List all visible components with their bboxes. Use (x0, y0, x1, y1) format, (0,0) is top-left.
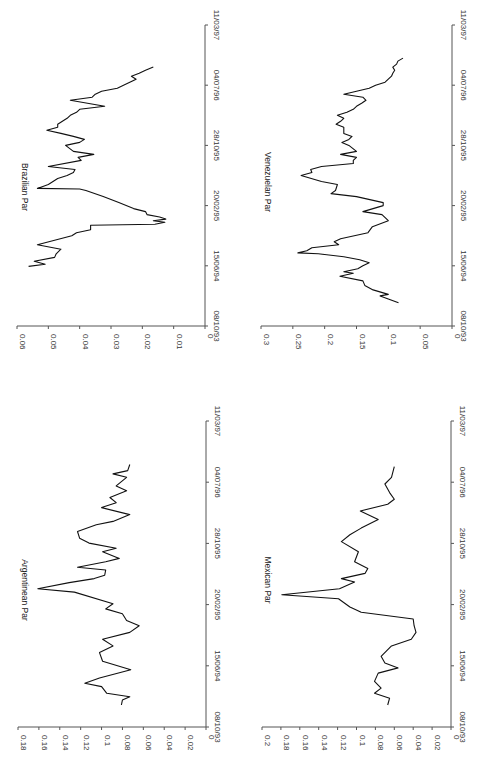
value-tick-label: 0.04 (165, 735, 174, 751)
value-tick-label: 0.18 (282, 735, 291, 751)
date-tick-label: 11/03/97 (213, 406, 222, 437)
date-tick-label: 04/07/96 (459, 70, 468, 102)
date-tick-label: 11/03/97 (458, 406, 467, 437)
value-tick-label: 0.08 (123, 735, 132, 751)
date-tick-label: 08/10/93 (459, 310, 468, 342)
date-tick-label: 28/10/95 (213, 528, 222, 560)
value-tick-label: 0.1 (389, 334, 398, 346)
date-tick-label: 28/10/95 (212, 130, 221, 162)
date-tick-label: 28/10/95 (459, 130, 468, 162)
value-tick-label: 0.3 (262, 334, 271, 346)
date-tick-label: 20/02/95 (212, 190, 221, 222)
chart-title: Mexican Par (263, 556, 273, 603)
chart-title: Venezuelan Par (263, 152, 273, 212)
date-tick-label: 04/07/96 (458, 467, 467, 499)
value-tick-label: 0.04 (414, 735, 423, 751)
date-tick-label: 28/10/95 (458, 528, 467, 560)
panel-venezuelan-par: 00.050.10.150.20.250.308/10/9315/06/9420… (261, 10, 468, 350)
value-tick-label: 0.12 (82, 735, 91, 751)
date-tick-label: 15/06/94 (212, 250, 221, 282)
series-line (298, 58, 403, 303)
chart-title: Brazilian Par (20, 163, 30, 211)
date-tick-label: 15/06/94 (459, 250, 468, 282)
panel-mexican-par: 00.020.040.060.080.10.120.140.160.180.20… (262, 406, 467, 751)
value-tick-label: 0.15 (358, 334, 367, 350)
value-tick-label: 0.16 (301, 735, 310, 751)
value-tick-label: 0.01 (175, 334, 184, 350)
date-tick-label: 04/07/96 (212, 70, 221, 102)
value-tick-label: 0.25 (294, 334, 303, 350)
value-tick-label: 0.1 (358, 735, 367, 747)
value-tick-label: 0.06 (395, 735, 404, 751)
date-tick-label: 20/02/95 (459, 190, 468, 222)
value-tick-label: 0.05 (421, 334, 430, 350)
chart-title: Argentinean Par (20, 559, 30, 621)
value-tick-label: 0.02 (186, 735, 195, 751)
value-tick-label: 0.04 (81, 334, 90, 350)
series-line (38, 465, 139, 706)
value-tick-label: 0.03 (112, 334, 121, 350)
value-tick-label: 0.06 (18, 334, 27, 350)
panel-argentinean-par: 00.020.040.060.080.10.120.140.160.1808/1… (18, 406, 222, 751)
value-tick-label: 0.2 (263, 735, 272, 747)
date-tick-label: 15/06/94 (213, 650, 222, 682)
panel-brazilian-par: 00.010.020.030.040.050.0608/10/9315/06/9… (17, 10, 221, 350)
date-tick-label: 04/07/96 (213, 467, 222, 499)
series-line (29, 67, 166, 266)
value-tick-label: 0.08 (376, 735, 385, 751)
value-tick-label: 0.06 (144, 735, 153, 751)
value-tick-label: 0.02 (143, 334, 152, 350)
value-tick-label: 0.14 (320, 735, 329, 751)
date-tick-label: 15/06/94 (458, 650, 467, 682)
date-tick-label: 20/02/95 (213, 589, 222, 621)
date-tick-label: 11/03/97 (459, 10, 468, 41)
value-tick-label: 0.05 (49, 334, 58, 350)
date-tick-label: 11/03/97 (212, 10, 221, 41)
date-tick-label: 08/10/93 (212, 310, 221, 342)
value-tick-label: 0.18 (19, 735, 28, 751)
value-tick-label: 0.14 (61, 735, 70, 751)
date-tick-label: 20/02/95 (458, 589, 467, 621)
date-tick-label: 08/10/93 (213, 711, 222, 743)
value-tick-label: 0.2 (326, 334, 335, 346)
series-line (282, 467, 416, 705)
chart-grid: 00.010.020.030.040.050.0608/10/9315/06/9… (0, 0, 481, 767)
value-tick-label: 0.1 (103, 735, 112, 747)
date-tick-label: 08/10/93 (458, 711, 467, 743)
value-tick-label: 0.16 (40, 735, 49, 751)
value-tick-label: 0.12 (339, 735, 348, 751)
value-tick-label: 0.02 (433, 735, 442, 751)
